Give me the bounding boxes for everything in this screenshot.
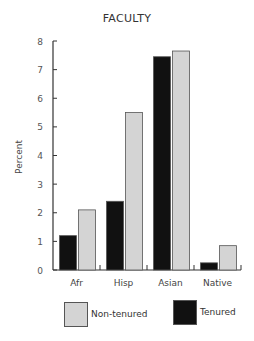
bar-non-tenured-afr	[79, 210, 96, 270]
bar-non-tenured-hisp	[126, 113, 143, 270]
legend-label-non-tenured: Non-tenured	[91, 309, 147, 319]
x-tick-label: Asian	[158, 278, 183, 288]
bar-tenured-afr	[60, 236, 77, 270]
bar-tenured-hisp	[107, 201, 124, 270]
bar-tenured-asian	[154, 57, 171, 270]
y-tick-label: 2	[37, 208, 43, 218]
y-tick-label: 4	[37, 151, 43, 161]
legend-label-tenured: Tenured	[200, 307, 236, 317]
y-tick-label: 8	[37, 37, 43, 47]
y-tick-label: 6	[37, 94, 43, 104]
legend-swatch-non-tenured	[64, 302, 88, 327]
bar-non-tenured-native	[220, 246, 237, 270]
y-tick-label: 7	[37, 65, 43, 75]
y-tick-label: 1	[37, 237, 43, 247]
bar-tenured-native	[201, 263, 218, 270]
bar-chart-plot: 012345678AfrHispAsianNative	[0, 0, 254, 341]
y-tick-label: 5	[37, 122, 43, 132]
x-tick-label: Afr	[70, 278, 83, 288]
y-tick-label: 3	[37, 180, 43, 190]
x-tick-label: Hisp	[114, 278, 134, 288]
y-tick-label: 0	[37, 266, 43, 276]
bar-non-tenured-asian	[173, 51, 190, 270]
legend-swatch-tenured	[173, 300, 197, 325]
x-tick-label: Native	[203, 278, 233, 288]
